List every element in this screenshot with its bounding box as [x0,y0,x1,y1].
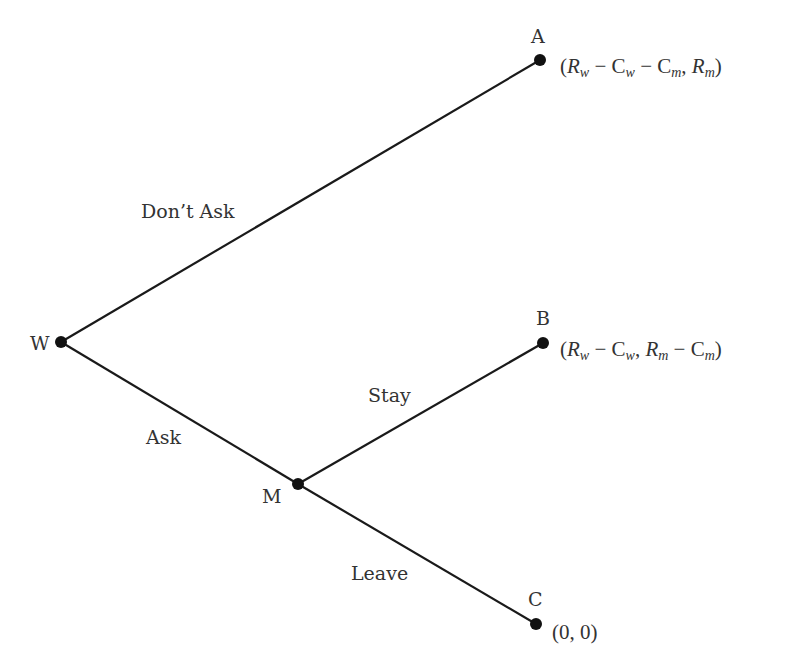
minus: − [668,337,690,361]
comma: , [681,54,692,78]
minus: − [589,337,611,361]
node-label-a: A [531,27,545,46]
node-label-m: M [262,487,281,506]
var-c: C [612,54,626,78]
sub-w: w [580,65,589,80]
edge-leave [298,484,536,624]
var-r: R [567,337,580,361]
edge-label-stay: Stay [368,386,411,405]
node-c [530,618,542,630]
edge-dont-ask [61,60,540,342]
sub-m: m [658,348,668,363]
var-r: R [645,337,658,361]
paren: ) [715,54,722,78]
minus: − [635,54,657,78]
edge-stay [298,343,543,484]
sub-m: m [705,348,715,363]
paren: ) [715,337,722,361]
var-c: C [612,337,626,361]
paren: ( [560,54,567,78]
node-label-w: W [30,334,50,353]
edge-ask [61,342,298,484]
sub-w: w [626,65,635,80]
payoff-c: (0, 0) [552,622,598,643]
node-b [537,337,549,349]
payoff-a: (Rw − Cw − Cm, Rm) [560,56,722,80]
var-c: C [691,337,705,361]
paren: ( [560,337,567,361]
comma: , [635,337,646,361]
node-label-c: C [528,590,543,609]
minus: − [589,54,611,78]
payoff-b: (Rw − Cw, Rm − Cm) [560,339,722,363]
var-r: R [692,54,705,78]
node-m [292,478,304,490]
sub-w: w [626,348,635,363]
sub-m: m [705,65,715,80]
node-label-b: B [536,309,550,328]
var-c: C [657,54,671,78]
node-a [534,54,546,66]
sub-m: m [671,65,681,80]
node-w [55,336,67,348]
edge-label-ask: Ask [146,428,181,447]
edge-label-leave: Leave [351,564,408,583]
sub-w: w [580,348,589,363]
var-r: R [567,54,580,78]
edge-label-dont-ask: Don’t Ask [141,202,235,221]
